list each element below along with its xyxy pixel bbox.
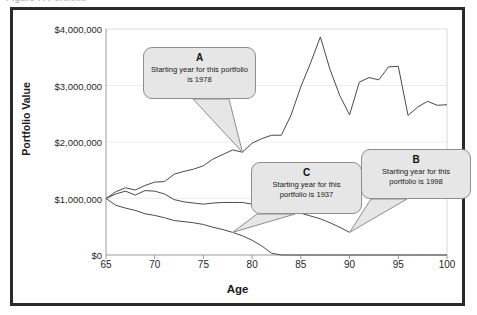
annotation-tail-c	[233, 214, 295, 232]
annotation-text: Starting year for this portfolio is 1998	[368, 167, 464, 186]
annotation-callout-b: BStarting year for this portfolio is 199…	[361, 149, 471, 199]
annotation-tag: B	[368, 154, 464, 166]
figure-frame: Portfolio Value Age $0$1,000,000$2,000,0…	[10, 7, 465, 306]
annotation-text: Starting year for this portfolio is 1937	[258, 180, 355, 199]
annotation-text: Starting year for this portfolio is 1978	[150, 65, 249, 84]
annotation-tag: A	[150, 52, 249, 64]
chart-area: Portfolio Value Age $0$1,000,000$2,000,0…	[13, 10, 462, 303]
figure-caption: Figure 7. Portfolio	[6, 0, 186, 5]
annotation-tail-a	[193, 99, 242, 152]
figure-container: Figure 7. Portfolio Portfolio Value Age …	[0, 0, 477, 315]
annotation-callout-c: CStarting year for this portfolio is 193…	[251, 162, 362, 214]
annotation-tag: C	[258, 167, 355, 179]
annotation-callout-a: AStarting year for this portfolio is 197…	[143, 47, 256, 99]
